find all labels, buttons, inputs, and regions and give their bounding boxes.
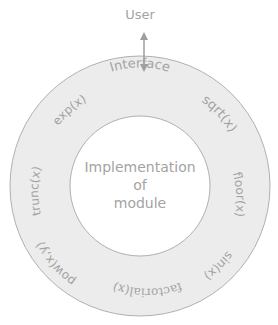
- implementation-line-3: module: [114, 195, 166, 211]
- implementation-line-2: of: [133, 177, 148, 193]
- module-diagram: User Interface sqrt(x) floor(x) sin(x) f…: [0, 0, 278, 325]
- implementation-line-1: Implementation: [84, 159, 195, 175]
- user-label: User: [125, 7, 155, 22]
